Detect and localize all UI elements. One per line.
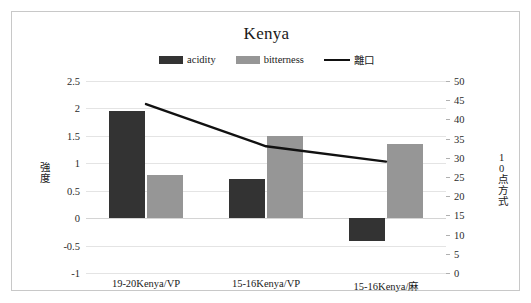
y-axis-tick-label: 0 [75,213,80,224]
gridline [86,273,446,274]
chart-title: Kenya [12,24,521,44]
y-axis-tick-label: -0.5 [63,240,80,251]
legend-item-acidity[interactable]: acidity [159,54,216,65]
secondary-y-axis-tick-mark [446,196,450,197]
secondary-y-axis-tick-mark [446,158,450,159]
secondary-y-axis-tick-label: 10 [454,229,465,240]
legend-label-bitterness: bitterness [264,54,304,65]
chart-frame: Kenya acidity bitterness 離口 強度 10点方式 2.5… [11,11,520,291]
secondary-y-axis-tick-label: 45 [454,95,465,106]
secondary-y-axis-tick-label: 0 [454,268,459,279]
y-axis-title: 強度 [36,162,51,184]
secondary-y-axis-tick-mark [446,254,450,255]
secondary-y-axis-tick-label: 25 [454,172,465,183]
secondary-y-axis-tick-label: 50 [454,76,465,87]
secondary-y-axis-tick-mark [446,215,450,216]
y-axis-tick-label: 1.5 [67,130,80,141]
secondary-y-axis-tick-mark [446,119,450,120]
y-axis-tick-label: 1 [75,158,80,169]
legend-line-marker [324,59,350,61]
legend-label-acidity: acidity [187,54,216,65]
secondary-y-axis-tick-label: 30 [454,152,465,163]
legend-item-line-series[interactable]: 離口 [324,52,374,67]
secondary-y-axis-tick-label: 35 [454,133,465,144]
secondary-y-axis-tick-label: 40 [454,114,465,125]
secondary-y-axis-tick-mark [446,235,450,236]
x-axis-tick-label: 19-20Kenya/VP [112,278,180,289]
legend-label-line-series: 離口 [354,52,374,67]
y-axis-tick-label: 2 [75,103,80,114]
x-axis-tick-label: 15-16Kenya/麻 [354,278,419,293]
legend-swatch-acidity [159,56,183,64]
plot-area: 2.521.510.50-0.5-1 50454035302520151050 … [86,81,446,273]
secondary-y-axis-tick-label: 5 [454,248,459,259]
secondary-y-axis-tick-mark [446,177,450,178]
y-axis-tick-label: -1 [71,268,80,279]
secondary-y-axis-tick-label: 15 [454,210,465,221]
y-axis-tick-label: 2.5 [67,76,80,87]
line-series-layer [86,81,446,273]
secondary-y-axis-tick-mark [446,81,450,82]
secondary-y-axis-tick-mark [446,139,450,140]
chart-legend: acidity bitterness 離口 [12,52,521,67]
x-axis-tick-label: 15-16Kenya/VP [232,278,300,289]
legend-swatch-bitterness [236,56,260,64]
secondary-y-axis-tick-label: 20 [454,191,465,202]
secondary-y-axis-tick-mark [446,273,450,274]
secondary-y-axis-title: 10点方式 [494,152,509,207]
legend-item-bitterness[interactable]: bitterness [236,54,304,65]
secondary-y-axis-tick-mark [446,100,450,101]
y-axis-tick-label: 0.5 [67,185,80,196]
line-series-path[interactable] [146,104,386,162]
